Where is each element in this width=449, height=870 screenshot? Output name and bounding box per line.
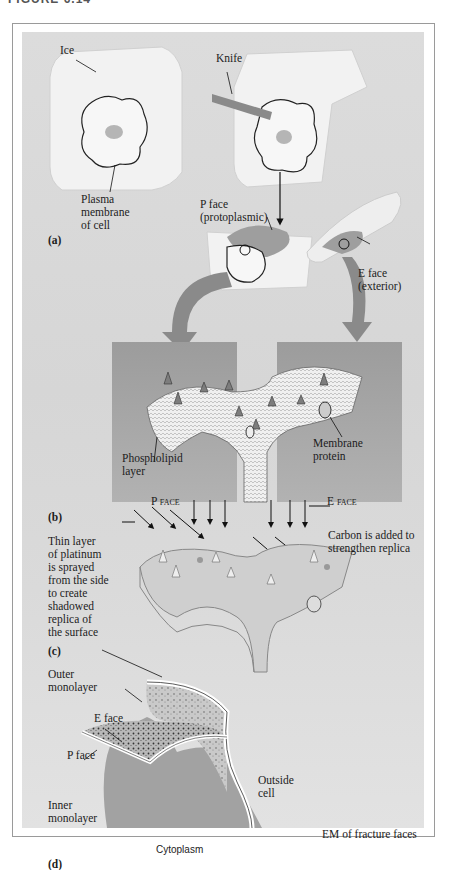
panel-label-a: (a) <box>48 234 61 246</box>
label-phospholipid-layer: Phospholipid layer <box>122 452 183 478</box>
label-e-face-exterior: E face (exterior) <box>358 267 401 293</box>
label-plasma-membrane: Plasma membrane of cell <box>81 193 130 232</box>
label-inner-monolayer: Inner monolayer <box>48 799 97 825</box>
label-outside-cell: Outside cell <box>258 774 294 800</box>
ice-block-right <box>212 50 367 187</box>
panel-label-d: (d) <box>48 858 62 870</box>
label-outer-monolayer: Outer monolayer <box>48 668 97 694</box>
label-p-face-d: P face <box>67 749 95 762</box>
label-ice: Ice <box>60 44 74 57</box>
label-knife: Knife <box>216 52 242 65</box>
panel-label-c: (c) <box>48 645 61 657</box>
label-em-fracture-faces: EM of fracture faces <box>322 828 417 841</box>
label-cytoplasm: Cytoplasm <box>156 843 203 856</box>
diagram-artwork <box>22 32 424 828</box>
caption-p-face: P face <box>151 495 180 508</box>
figure-panel: Ice Knife Plasma membrane of cell P face… <box>22 32 424 828</box>
ice-block-left <box>50 47 182 190</box>
caption-e-face: E face <box>327 495 357 508</box>
curved-arrow-left <box>162 272 232 352</box>
label-membrane-protein: Membrane protein <box>313 437 363 463</box>
label-e-face-d: E face <box>94 712 123 725</box>
label-platinum-spray: Thin layer of platinum is sprayed from t… <box>48 535 109 639</box>
figure-frame: Ice Knife Plasma membrane of cell P face… <box>12 23 435 837</box>
em-fracture-d <box>82 650 262 828</box>
figure-header-clipped: FIGURE 6.14 <box>8 0 91 6</box>
label-p-face-protoplasmic: P face (protoplasmic) <box>200 198 268 224</box>
panel-label-b: (b) <box>48 511 62 523</box>
replica-membrane-c <box>140 545 352 673</box>
label-carbon-added: Carbon is added to strengthen replica <box>328 529 415 555</box>
